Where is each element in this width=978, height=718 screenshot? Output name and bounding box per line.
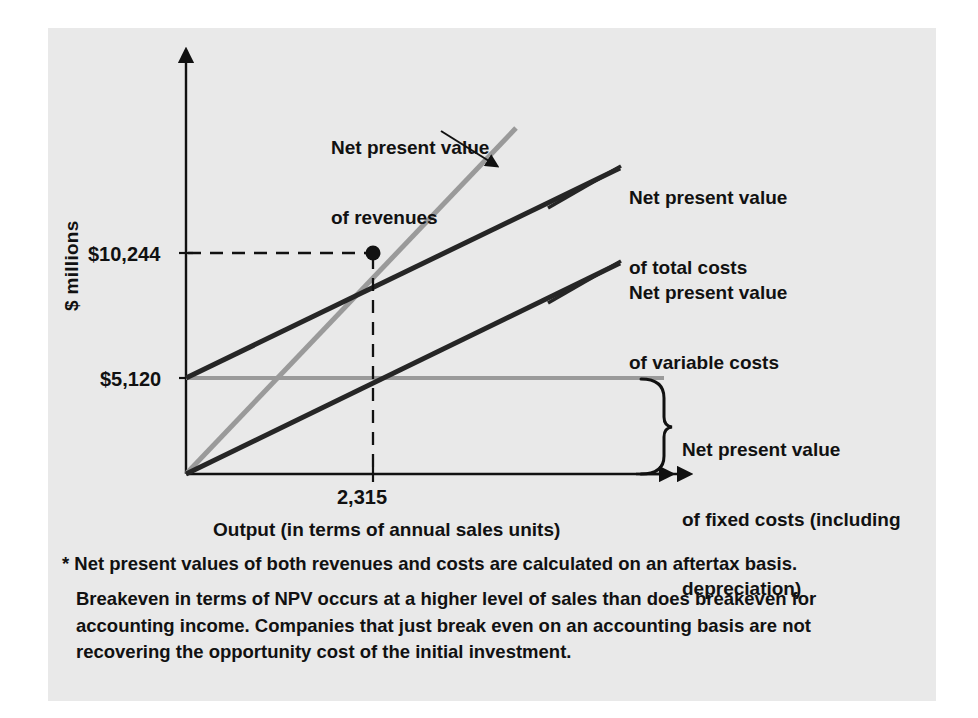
annotation-npv-fixed-costs-line1: Net present value bbox=[682, 438, 901, 461]
footnote-body-line2: accounting income. Companies that just b… bbox=[76, 613, 922, 639]
series-variable-costs-line bbox=[186, 263, 620, 474]
annotation-npv-fixed-costs-line2: of fixed costs (including bbox=[682, 508, 901, 531]
annotation-npv-revenues-line1: Net present value bbox=[331, 136, 489, 159]
leader-line-total-costs bbox=[548, 166, 621, 208]
leader-line-variable-costs bbox=[548, 261, 621, 303]
footnote-body: Breakeven in terms of NPV occurs at a hi… bbox=[62, 586, 922, 665]
annotation-npv-total-costs-line1: Net present value bbox=[629, 186, 787, 209]
annotation-npv-revenues: Net present value of revenues bbox=[331, 90, 489, 275]
y-tick-label-10244: $10,244 bbox=[88, 242, 160, 266]
footnote-body-line1: Breakeven in terms of NPV occurs at a hi… bbox=[76, 586, 922, 612]
footnote-block: * Net present values of both revenues an… bbox=[62, 551, 922, 665]
x-tick-label-2315: 2,315 bbox=[337, 485, 387, 509]
annotation-npv-revenues-line2: of revenues bbox=[331, 206, 489, 229]
figure-container: $ millions $10,244 $5,120 2,315 Output (… bbox=[0, 0, 978, 718]
footnote-body-line3: recovering the opportunity cost of the i… bbox=[76, 639, 922, 665]
annotation-npv-variable-costs-line1: Net present value bbox=[629, 281, 787, 304]
x-axis-title: Output (in terms of annual sales units) bbox=[213, 518, 560, 541]
y-tick-label-5120: $5,120 bbox=[100, 367, 161, 391]
y-axis-title: $ millions bbox=[60, 196, 90, 336]
footnote-star-note: * Net present values of both revenues an… bbox=[62, 551, 922, 577]
annotation-npv-variable-costs-line2: of variable costs bbox=[629, 351, 787, 374]
